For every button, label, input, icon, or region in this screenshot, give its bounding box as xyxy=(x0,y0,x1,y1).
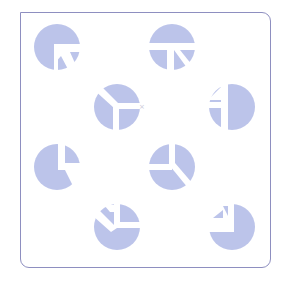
svg-text:×: × xyxy=(139,103,145,111)
piece-8-notch-icon xyxy=(209,204,255,250)
piece-1-arrow-icon xyxy=(34,24,81,73)
piece-7-angle-icon xyxy=(93,203,142,250)
piece-6-three-wedge-icon xyxy=(148,143,195,190)
piece-2-t-diagonal-icon xyxy=(148,24,196,72)
puzzle-figures: × xyxy=(0,0,287,284)
piece-5-cross-cut-icon xyxy=(34,144,82,190)
piece-3-y-split-icon: × xyxy=(92,83,145,131)
piece-4-bar-triangle-icon xyxy=(208,84,255,130)
